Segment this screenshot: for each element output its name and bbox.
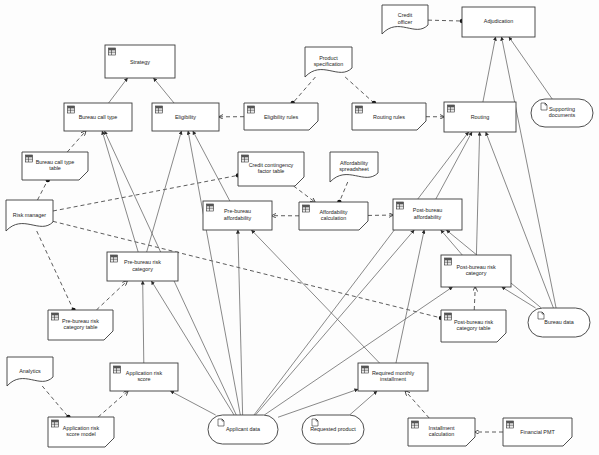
node-label: Adjudication <box>484 18 513 24</box>
node-label: Supportingdocuments <box>549 106 576 119</box>
table-icon <box>507 421 514 428</box>
node-credit-officer[interactable]: Creditofficer <box>382 5 428 34</box>
node-affordability-spreadsheet[interactable]: Affordabilityspreadsheet <box>330 152 378 182</box>
edge-required-monthly-installment-to-pre-bureau-affordability <box>251 230 379 363</box>
node-label: Installmentcalculation <box>428 425 455 438</box>
table-icon <box>445 313 452 320</box>
table-icon <box>248 106 255 113</box>
edge-required-monthly-installment-to-post-bureau-affordability <box>396 230 424 363</box>
edge-product-specification-to-routing-rules <box>345 77 376 105</box>
edge-affordability-spreadsheet-to-affordability-calculation <box>337 182 348 204</box>
node-routing-rules[interactable]: Routing rules <box>352 103 426 130</box>
table-icon <box>109 48 116 55</box>
page-icon <box>218 419 224 426</box>
edge-applicant-data-to-application-risk-score <box>170 391 215 415</box>
node-post-bureau-risk-category[interactable]: Post-bureau riskcategory <box>441 255 511 287</box>
node-label: Strategy <box>130 59 150 65</box>
table-icon <box>303 205 310 212</box>
edge-installment-calculation-to-required-monthly-installment <box>405 391 429 418</box>
node-label: Affordabilityspreadsheet <box>339 160 369 173</box>
edge-applicant-data-to-post-bureau-risk-category <box>264 287 452 415</box>
edge-bureau-data-to-post-bureau-risk-category <box>502 287 536 308</box>
node-label: Analytics <box>19 368 41 374</box>
table-icon <box>111 255 118 262</box>
node-label: Bureau data <box>544 319 573 325</box>
table-icon <box>445 258 452 265</box>
node-label: Risk manager <box>13 212 46 218</box>
table-icon <box>52 420 59 427</box>
edge-product-specification-to-eligibility-rules <box>291 77 316 105</box>
node-financial-pmt[interactable]: Financial PMT <box>503 418 572 446</box>
table-icon <box>114 366 121 373</box>
node-risk-manager[interactable]: Risk manager <box>6 200 53 231</box>
edge-risk-manager-to-pre-bureau-risk-category-table <box>37 231 76 312</box>
edge-pre-bureau-risk-category-table-to-pre-bureau-risk-category <box>96 281 127 310</box>
node-label: Routing <box>471 114 490 120</box>
node-application-risk-score-model[interactable]: Application riskscore model <box>48 417 114 447</box>
table-icon <box>412 421 419 428</box>
node-product-specification[interactable]: Productspecification <box>305 47 352 77</box>
node-application-risk-score[interactable]: Application riskscore <box>110 363 178 391</box>
node-label: Eligibility rules <box>264 114 298 120</box>
node-pre-bureau-risk-category-table[interactable]: Pre-bureau riskcategory table <box>48 310 113 340</box>
node-strategy[interactable]: Strategy <box>105 45 175 78</box>
edge-supporting-documents-to-adjudication <box>509 37 552 99</box>
edge-credit-contingency-factor-table-to-affordability-calculation <box>294 186 315 202</box>
table-icon <box>356 106 363 113</box>
node-eligibility-rules[interactable]: Eligibility rules <box>244 103 318 130</box>
node-bureau-call-type[interactable]: Bureau call type <box>64 103 132 131</box>
table-icon <box>156 106 163 113</box>
table-icon <box>52 313 59 320</box>
node-label: Bureau call type <box>79 114 118 120</box>
edge-applicant-data-to-eligibility <box>188 131 240 415</box>
node-label: Pre-bureauaffordability <box>224 209 252 222</box>
node-label: Creditofficer <box>398 13 413 26</box>
edge-applicant-data-to-pre-bureau-affordability <box>238 230 243 415</box>
node-label: Requested product <box>310 426 356 432</box>
table-icon <box>207 204 214 211</box>
node-bureau-call-type-table[interactable]: Bureau call typetable <box>22 152 88 180</box>
edge-pre-bureau-affordability-to-eligibility <box>193 131 230 201</box>
table-icon <box>68 106 75 113</box>
node-label: Pre-bureau riskcategory table <box>62 318 99 331</box>
node-analytics[interactable]: Analytics <box>7 357 53 386</box>
node-pre-bureau-risk-category[interactable]: Pre-bureau riskcategory <box>107 252 178 281</box>
node-bureau-data[interactable]: Bureau data <box>528 308 590 337</box>
node-eligibility[interactable]: Eligibility <box>152 103 219 131</box>
node-label: Application riskscore model <box>63 425 100 438</box>
node-adjudication[interactable]: Adjudication <box>462 7 535 37</box>
node-applicant-data[interactable]: Applicant data <box>208 415 278 444</box>
edge-bureau-call-type-to-strategy <box>109 78 128 103</box>
node-post-bureau-affordability[interactable]: Post-bureauaffordability <box>393 199 462 230</box>
node-label: Post-bureauaffordability <box>413 208 442 221</box>
node-routing[interactable]: Routing <box>444 102 516 132</box>
page-icon <box>538 312 544 319</box>
edge-routing-to-adjudication <box>483 37 496 102</box>
node-affordability-calculation[interactable]: Affordabilitycalculation <box>299 202 368 230</box>
node-pre-bureau-affordability[interactable]: Pre-bureauaffordability <box>203 201 272 230</box>
table-icon <box>362 366 369 373</box>
node-label: Affordabilitycalculation <box>319 209 347 222</box>
edge-post-bureau-risk-category-to-routing <box>476 132 479 255</box>
node-requested-product[interactable]: Requested product <box>302 415 364 444</box>
node-installment-calculation[interactable]: Installmentcalculation <box>408 418 475 446</box>
node-label: Routing rules <box>373 114 405 120</box>
edge-risk-manager-to-bureau-call-type-table <box>37 178 50 200</box>
node-credit-contingency-factor-table[interactable]: Credit contingencyfactor table <box>238 152 304 186</box>
edge-post-bureau-affordability-to-routing <box>436 132 472 199</box>
edge-eligibility-to-strategy <box>154 78 174 103</box>
node-post-bureau-risk-category-table[interactable]: Post-bureau riskcategory table <box>441 310 506 342</box>
page-icon <box>541 103 547 110</box>
node-required-monthly-installment[interactable]: Required monthlyinstallment <box>358 363 428 391</box>
edge-requested-product-to-required-monthly-installment <box>350 391 377 415</box>
table-icon <box>242 155 249 162</box>
node-label: Applicant data <box>226 426 260 432</box>
edge-analytics-to-application-risk-score-model <box>42 386 70 419</box>
edge-post-bureau-risk-category-table-to-post-bureau-risk-category <box>474 287 475 310</box>
edge-credit-officer-to-adjudication <box>428 19 464 23</box>
decision-requirements-diagram: StrategyBureau call typeEligibilityEligi… <box>0 0 599 455</box>
diagram-canvas: StrategyBureau call typeEligibilityEligi… <box>0 0 599 455</box>
edge-applicant-data-to-required-monthly-installment <box>278 389 358 417</box>
node-supporting-documents[interactable]: Supportingdocuments <box>531 99 593 127</box>
edge-bureau-call-type-table-to-bureau-call-type <box>67 131 85 152</box>
